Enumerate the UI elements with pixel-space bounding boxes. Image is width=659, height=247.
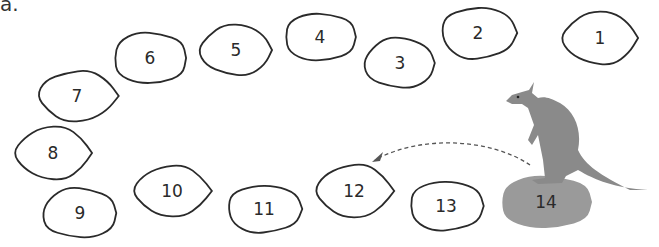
stone-2: 2 <box>443 8 518 59</box>
stone-3: 3 <box>365 38 435 88</box>
stone-9: 9 <box>43 188 116 237</box>
stone-12: 12 <box>316 165 394 218</box>
stone-8: 8 <box>15 127 92 180</box>
stone-7: 7 <box>39 71 119 122</box>
stone-number: 11 <box>253 199 275 219</box>
stone-number: 7 <box>72 86 83 106</box>
stone-number: 12 <box>343 181 365 201</box>
stone-number: 9 <box>75 203 86 223</box>
stone-13: 13 <box>411 182 483 231</box>
stone-number: 4 <box>315 27 326 47</box>
kangaroo-icon <box>506 82 648 190</box>
stone-number: 5 <box>231 40 242 60</box>
stone-number: 8 <box>48 143 59 163</box>
stone-number: 14 <box>535 192 557 212</box>
stone-4: 4 <box>286 14 356 61</box>
stone-6: 6 <box>115 33 186 83</box>
start-stone-14: 14 <box>502 176 592 228</box>
stone-number: 2 <box>473 23 484 43</box>
stone-number: 3 <box>395 53 406 73</box>
stone-10: 10 <box>134 166 212 217</box>
stone-1: 1 <box>562 12 638 65</box>
jump-arrow-icon <box>375 143 530 165</box>
stone-14: 14 <box>502 176 592 228</box>
stone-11: 11 <box>229 186 302 233</box>
stone-number: 13 <box>435 196 457 216</box>
stone-number: 6 <box>145 48 156 68</box>
stone-5: 5 <box>200 25 272 76</box>
stone-number: 10 <box>161 181 183 201</box>
number-line-scene: 12345678910111213 14 <box>0 0 659 247</box>
stone-number: 1 <box>595 28 606 48</box>
